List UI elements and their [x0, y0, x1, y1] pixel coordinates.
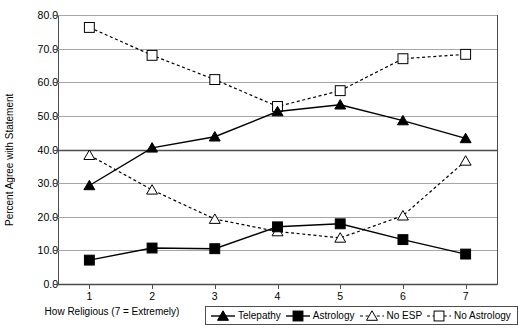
marker-filled-square: [210, 244, 220, 254]
marker-filled-square: [84, 255, 94, 265]
legend-label: No Astrology: [454, 310, 511, 321]
chart-legend: TelepathyAstrologyNo ESPNo Astrology: [205, 306, 518, 325]
legend-item-astrology: Astrology: [285, 310, 357, 322]
marker-open-square: [147, 50, 157, 60]
legend-label: Astrology: [313, 310, 355, 321]
marker-open-square: [461, 49, 471, 59]
legend-key-open-square-icon: [426, 310, 452, 322]
legend-key-filled-triangle-icon: [210, 310, 236, 322]
marker-filled-square: [335, 219, 345, 229]
marker-filled-square: [398, 235, 408, 245]
x-tick-label: 4: [263, 290, 293, 302]
marker-open-square: [210, 75, 220, 85]
legend-key-filled-square-icon: [285, 310, 311, 322]
legend-item-no-astrology: No Astrology: [426, 310, 513, 322]
marker-open-square: [398, 54, 408, 64]
marker-open-square: [84, 23, 94, 33]
legend-key-open-triangle-icon: [359, 310, 385, 322]
x-tick-label: 6: [388, 290, 418, 302]
x-tick-label: 3: [200, 290, 230, 302]
marker-filled-square: [293, 311, 303, 321]
legend-label: Telepathy: [238, 310, 281, 321]
x-tick-label: 7: [451, 290, 481, 302]
marker-open-square: [434, 311, 444, 321]
legend-item-telepathy: Telepathy: [210, 310, 283, 322]
x-tick-label: 2: [137, 290, 167, 302]
marker-filled-square: [461, 249, 471, 259]
x-tick-label: 5: [325, 290, 355, 302]
x-axis-label: How Religious (7 = Extremely): [22, 306, 202, 317]
legend-item-no-esp: No ESP: [359, 310, 425, 322]
legend-label: No ESP: [387, 310, 423, 321]
marker-filled-square: [147, 243, 157, 253]
marker-filled-square: [273, 222, 283, 232]
x-tick-label: 1: [74, 290, 104, 302]
marker-open-square: [335, 86, 345, 96]
